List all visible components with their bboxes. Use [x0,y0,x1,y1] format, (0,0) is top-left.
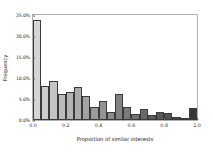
histogram-bar [115,94,123,120]
x-axis-tick-label: 0.4 [95,120,103,128]
y-axis-label: Frequency [1,14,10,121]
y-axis-tick-label: 10.0% [16,76,33,81]
y-axis-tick-label: 20.0% [16,34,33,39]
x-axis-tick-label: 0.0 [29,120,37,128]
histogram-bar [189,108,197,120]
histogram-bar [82,96,90,120]
histogram-bar [41,86,49,120]
x-axis-tick-label: 0.2 [62,120,70,128]
histogram-bar [90,107,98,120]
y-axis-tick-label: 15.0% [16,55,33,60]
histogram-bar [148,115,156,120]
histogram-bar [74,87,82,120]
histogram-bar [49,81,57,120]
histogram-bar [107,112,115,120]
histogram-bar [58,94,66,120]
x-axis-tick-label: 0.8 [160,120,168,128]
histogram-bar [156,112,164,120]
y-axis-label-text: Frequency [3,54,9,81]
y-axis-tick-label: 25.0% [16,13,33,18]
histogram-bar [123,107,131,120]
x-axis-tick-label: 1.0 [193,120,201,128]
x-axis-label: Proportion of similar interests [32,136,198,142]
bar-series [33,15,197,120]
histogram-figure: Frequency 0.0%5.0%10.0%15.0%20.0%25.0% 0… [0,0,213,158]
x-axis-tick-label: 0.6 [128,120,136,128]
histogram-bar [164,113,172,120]
histogram-bar [66,92,74,120]
histogram-bar [140,109,148,120]
histogram-bar [99,101,107,120]
histogram-bar [181,118,189,120]
plot-area: 0.0%5.0%10.0%15.0%20.0%25.0% 0.00.20.40.… [32,14,198,121]
histogram-bar [172,117,180,120]
y-axis-tick-label: 5.0% [19,97,33,102]
